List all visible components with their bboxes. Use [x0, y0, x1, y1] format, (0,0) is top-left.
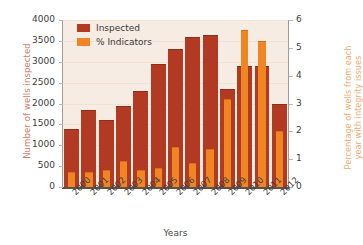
y-axis-left-tick-label: 3500 — [21, 35, 55, 45]
legend: Inspected% Indicators — [77, 22, 152, 50]
bar-group — [150, 20, 167, 187]
y-axis-left-tick — [59, 83, 63, 84]
legend-swatch — [77, 38, 90, 46]
y-axis-left-tick — [59, 187, 63, 188]
bar-group — [201, 20, 218, 187]
bar-group — [219, 20, 236, 187]
y-axis-left-tick — [59, 166, 63, 167]
y-axis-left-tick — [59, 104, 63, 105]
bar-group — [253, 20, 270, 187]
y-axis-right-tick — [289, 159, 293, 160]
bar-group — [167, 20, 184, 187]
y-axis-right-title-line2: year with integrity issues — [353, 23, 363, 193]
y-axis-left-tick-label: 4000 — [21, 14, 55, 24]
legend-item: % Indicators — [77, 36, 152, 47]
y-axis-right-title: Percentage of wells from each year with … — [344, 23, 363, 193]
y-axis-right-tick-label: 1 — [296, 153, 318, 163]
y-axis-left-tick — [59, 41, 63, 42]
bar-group — [236, 20, 253, 187]
y-axis-right-tick-label: 5 — [296, 42, 318, 52]
y-axis-right-title-line1: Percentage of wells from each — [344, 23, 354, 193]
y-axis-right-tick — [289, 48, 293, 49]
bar-group — [271, 20, 288, 187]
x-axis-title: Years — [0, 228, 351, 238]
bar-indicator — [224, 99, 231, 187]
y-axis-left-tick-label: 2500 — [21, 77, 55, 87]
y-axis-left-tick-label: 0 — [21, 181, 55, 191]
bar-indicator — [241, 30, 248, 187]
legend-item: Inspected — [77, 22, 152, 33]
y-axis-left-tick-label: 2000 — [21, 98, 55, 108]
y-axis-right-tick — [289, 131, 293, 132]
y-axis-left-tick — [59, 124, 63, 125]
y-axis-left-tick-label: 500 — [21, 160, 55, 170]
legend-label: Inspected — [96, 23, 140, 33]
legend-label: % Indicators — [96, 37, 152, 47]
y-axis-right-tick-label: 4 — [296, 70, 318, 80]
bar-indicator — [258, 41, 265, 187]
y-axis-left-tick-label: 1000 — [21, 139, 55, 149]
y-axis-right-tick-label: 3 — [296, 98, 318, 108]
y-axis-left-tick-label: 1500 — [21, 118, 55, 128]
y-axis-left-tick-label: 3000 — [21, 56, 55, 66]
bar-group — [184, 20, 201, 187]
legend-swatch — [77, 24, 90, 32]
y-axis-right-tick — [289, 104, 293, 105]
y-axis-left-tick — [59, 20, 63, 21]
y-axis-right-tick-label: 2 — [296, 125, 318, 135]
y-axis-left-tick — [59, 62, 63, 63]
y-axis-right-tick-label: 6 — [296, 14, 318, 24]
y-axis-left-tick — [59, 145, 63, 146]
y-axis-right-tick — [289, 20, 293, 21]
y-axis-right-tick — [289, 76, 293, 77]
